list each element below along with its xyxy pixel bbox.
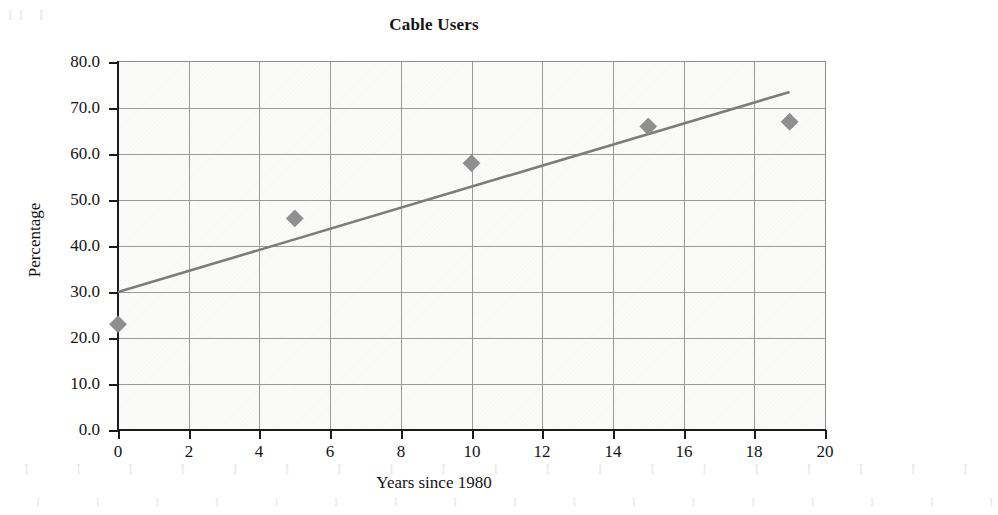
x-axis-tick — [684, 430, 686, 439]
y-axis-tick — [109, 108, 118, 110]
data-point-marker — [286, 210, 303, 227]
x-axis-tick-label: 8 — [381, 443, 421, 460]
y-axis-tick — [109, 430, 118, 432]
x-axis-tick-label: 20 — [805, 443, 845, 460]
y-axis-tick — [109, 384, 118, 386]
y-axis-tick-label: 60.0 — [40, 145, 100, 162]
y-axis-tick — [109, 200, 118, 202]
x-axis-tick — [401, 430, 403, 439]
y-axis-tick-label: 10.0 — [40, 375, 100, 392]
data-point-marker — [110, 316, 127, 333]
x-axis-tick — [542, 430, 544, 439]
x-axis-tick — [472, 430, 474, 439]
data-point-marker — [463, 155, 480, 172]
x-axis-tick-label: 14 — [593, 443, 633, 460]
chart-title: Cable Users — [0, 15, 868, 35]
y-axis-tick-label: 70.0 — [40, 99, 100, 116]
x-axis-tick-label: 10 — [452, 443, 492, 460]
y-axis-tick — [109, 338, 118, 340]
x-axis-tick — [118, 430, 120, 439]
y-axis-tick — [109, 246, 118, 248]
trend-line — [118, 92, 790, 292]
y-axis-tick-label: 50.0 — [40, 191, 100, 208]
data-point-marker — [781, 113, 798, 130]
y-axis-tick-label: 20.0 — [40, 329, 100, 346]
y-axis-tick — [109, 62, 118, 64]
plot-frame-right — [825, 61, 826, 431]
scan-ghost-artifact-bottom-2: I I I I I I I I I I I I I I I I I — [36, 494, 998, 510]
x-axis-tick — [754, 430, 756, 439]
y-axis-title: Percentage — [25, 160, 45, 320]
x-axis-tick-label: 6 — [310, 443, 350, 460]
x-axis-tick — [189, 430, 191, 439]
x-axis-tick-label: 12 — [522, 443, 562, 460]
x-axis-tick — [330, 430, 332, 439]
x-axis-tick — [613, 430, 615, 439]
x-axis-tick-label: 0 — [98, 443, 138, 460]
y-axis-tick-label: 30.0 — [40, 283, 100, 300]
x-axis-tick — [259, 430, 261, 439]
y-axis-tick-label: 80.0 — [40, 53, 100, 70]
x-axis-tick — [825, 430, 827, 439]
x-axis-tick-label: 4 — [239, 443, 279, 460]
x-axis-tick-label: 18 — [734, 443, 774, 460]
data-layer — [118, 62, 825, 430]
data-markers-group — [110, 113, 799, 332]
x-axis-tick-label: 2 — [169, 443, 209, 460]
trend-line-group — [118, 92, 790, 292]
x-axis-title: Years since 1980 — [0, 473, 868, 493]
y-axis-tick-label: 40.0 — [40, 237, 100, 254]
y-axis-tick-label: 0.0 — [40, 421, 100, 438]
y-axis-tick — [109, 292, 118, 294]
x-axis-tick-label: 16 — [664, 443, 704, 460]
y-axis-tick — [109, 154, 118, 156]
